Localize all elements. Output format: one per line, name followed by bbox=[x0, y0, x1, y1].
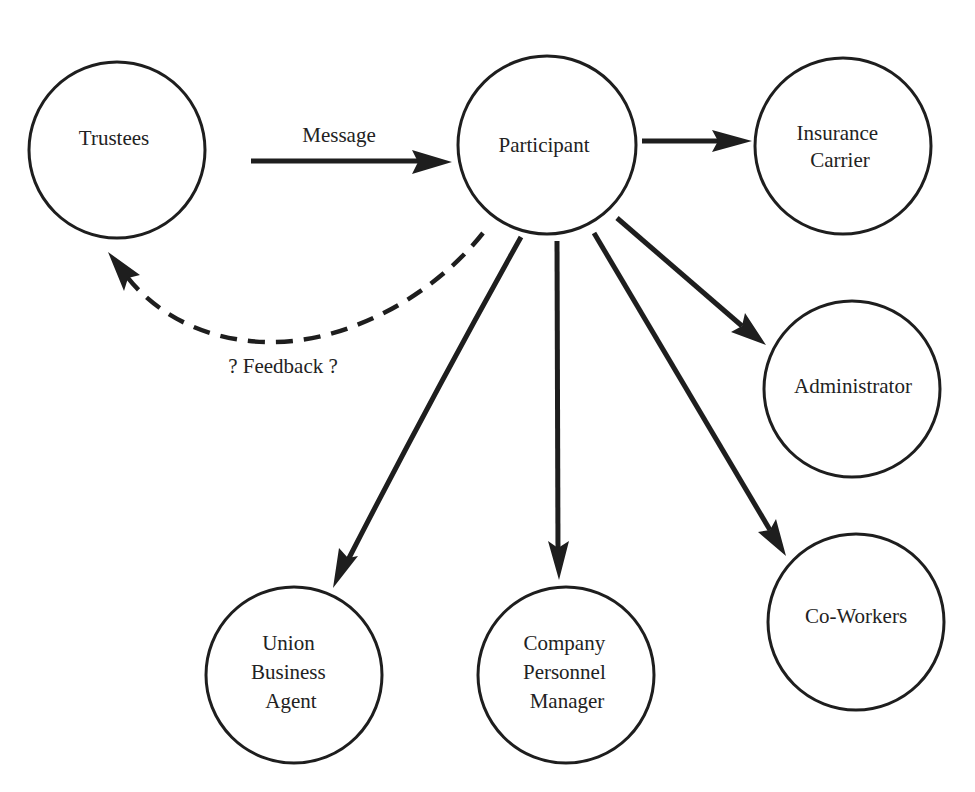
node-label-line: Participant bbox=[499, 133, 590, 157]
edge-label-message: Message bbox=[302, 123, 375, 147]
edge-feedback: ? Feedback ? bbox=[108, 233, 483, 378]
svg-text:Co-Workers: Co-Workers bbox=[805, 604, 907, 628]
node-label-line: Trustees bbox=[79, 126, 149, 150]
edge-message: Message bbox=[251, 123, 452, 174]
node-co-workers: Co-Workers bbox=[768, 534, 944, 710]
node-participant: Participant bbox=[458, 56, 636, 234]
edge-to-company bbox=[548, 241, 569, 580]
svg-text:Administrator: Administrator bbox=[794, 374, 912, 398]
node-label-line: Insurance bbox=[797, 121, 879, 145]
node-label-line: Administrator bbox=[794, 374, 912, 398]
node-label-line: Carrier bbox=[810, 148, 869, 172]
communication-diagram: Message ? Feedback ? Trustees Participan bbox=[0, 0, 975, 792]
node-label-line: Manager bbox=[530, 689, 605, 713]
node-administrator: Administrator bbox=[764, 301, 940, 477]
node-label-line: Co-Workers bbox=[805, 604, 907, 628]
node-union-business-agent: Union Business Agent bbox=[206, 587, 382, 763]
svg-text:Company Personnel: Company Personnel Manager bbox=[523, 631, 611, 713]
node-trustees: Trustees bbox=[29, 62, 205, 238]
node-label-line: Personnel bbox=[523, 660, 606, 684]
arrowhead-icon bbox=[333, 548, 358, 588]
edge-to-administrator bbox=[617, 218, 766, 345]
edge-to-union bbox=[333, 237, 521, 588]
node-label-line: Union bbox=[262, 631, 315, 655]
arrowhead-icon bbox=[758, 519, 786, 556]
edge-label-feedback: ? Feedback ? bbox=[228, 354, 338, 378]
node-insurance-carrier: Insurance Carrier bbox=[755, 58, 931, 234]
node-company-personnel-manager: Company Personnel Manager bbox=[478, 587, 654, 763]
svg-text:Participant: Participant bbox=[499, 133, 590, 157]
node-label-line: Agent bbox=[265, 689, 316, 713]
node-label-line: Company bbox=[524, 631, 606, 655]
arrowhead-icon bbox=[412, 150, 452, 174]
svg-text:Trustees: Trustees bbox=[79, 126, 149, 150]
edge-to-insurance bbox=[642, 130, 752, 152]
node-label-line: Business bbox=[251, 660, 326, 684]
arrowhead-icon bbox=[712, 130, 752, 152]
